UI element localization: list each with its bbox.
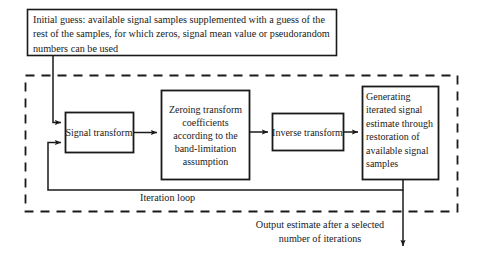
output-estimate-label: Output estimate after a selected number … — [240, 218, 400, 246]
flowchart-diagram: Initial guess: available signal samples … — [0, 0, 485, 255]
initial-guess-label: Initial guess: available signal samples … — [33, 13, 333, 56]
signal-transform-label: Signal transform — [65, 112, 133, 153]
inverse-transform-label: Inverse transform — [272, 114, 343, 151]
connector-initial-to-signal — [53, 56, 61, 123]
iteration-loop-label: Iteration loop — [140, 192, 195, 203]
generating-estimate-label: Generating iterated signal estimate thro… — [366, 90, 438, 178]
zeroing-label: Zeroing transform coefficients according… — [162, 91, 249, 180]
